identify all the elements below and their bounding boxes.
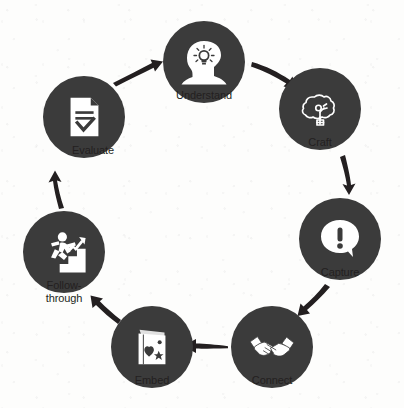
handshake-icon	[246, 321, 298, 373]
node-understand-label: Understand	[176, 89, 232, 102]
node-evaluate-label: Evaluate	[72, 144, 114, 157]
arrow-embed-to-follow-through	[91, 296, 122, 325]
tree-pruning-icon	[295, 84, 345, 134]
diagram-canvas: Understand C	[0, 0, 404, 408]
head-lightbulb-icon	[179, 37, 229, 87]
node-connect-label: Connect	[252, 374, 292, 387]
speech-bubble-exclamation-icon	[315, 214, 365, 264]
node-follow-through-label: Follow- through	[46, 279, 83, 304]
node-capture-label: Capture	[321, 266, 359, 279]
arrow-capture-to-connect	[298, 284, 331, 316]
arrow-craft-to-capture	[340, 155, 356, 195]
arrow-evaluate-to-understand	[113, 60, 163, 88]
person-climbing-stairs-icon	[37, 225, 91, 279]
card-heart-moon-star-icon	[128, 323, 176, 371]
arrow-follow-through-to-evaluate	[49, 171, 65, 210]
node-craft-label: Craft	[308, 136, 331, 149]
node-embed-label: Embed	[135, 374, 169, 387]
document-checkmark-icon	[60, 93, 108, 141]
